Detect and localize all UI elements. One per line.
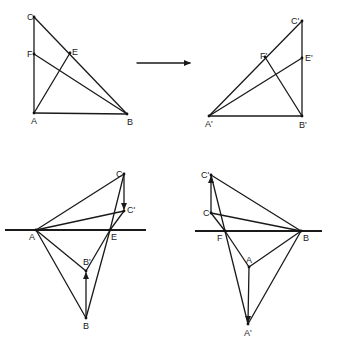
point-B [85, 317, 88, 320]
label-F: F [27, 49, 33, 59]
point-F [224, 230, 227, 233]
arrow-A-to-Ap-icon [248, 267, 249, 322]
label-E: E [72, 47, 78, 57]
label-Fp: F' [260, 51, 267, 61]
point-Ap [247, 323, 250, 326]
panel-top-right: C' F' E' A' B' [205, 16, 313, 130]
label-C: C [203, 208, 210, 218]
point-B [300, 230, 303, 233]
label-Cp: C' [291, 16, 299, 26]
label-B: B [303, 233, 309, 243]
label-Bp: B' [299, 120, 307, 130]
point-Bp [85, 270, 88, 273]
label-Cp: C' [201, 170, 209, 180]
label-Ap: A' [244, 328, 252, 338]
label-Ep: E' [305, 53, 313, 63]
segment-AE [34, 53, 70, 113]
segment-ApEp [209, 58, 302, 116]
segment-FB [34, 54, 127, 114]
figure-svg: C F E A B C' F' E' A' B' [0, 0, 340, 348]
label-C: C [27, 12, 34, 22]
segment-ApCp [209, 21, 302, 116]
point-Ap [208, 115, 211, 118]
point-E [69, 52, 72, 55]
point-Cp [123, 210, 126, 213]
point-A [35, 229, 38, 232]
point-Cp [301, 20, 304, 23]
geometry-figure: C F E A B C' F' E' A' B' [0, 0, 340, 348]
point-Cp [210, 174, 213, 177]
point-F [33, 53, 36, 56]
label-A: A [246, 255, 252, 265]
label-A: A [31, 116, 37, 126]
segment-AB [34, 113, 127, 114]
segment-AC [36, 174, 124, 230]
label-Ap: A' [205, 119, 213, 129]
label-Cp: C' [127, 205, 135, 215]
point-Ep [301, 57, 304, 60]
panel-bottom-left: C C' A E B' B [5, 169, 146, 331]
label-F: F [217, 233, 223, 243]
segment-ABp [36, 230, 86, 271]
segment-FAp [225, 231, 248, 324]
segment-CB [34, 17, 127, 114]
segment-BAp [248, 231, 301, 324]
label-C: C [116, 169, 123, 179]
label-A: A [29, 232, 35, 242]
panel-top-left: C F E A B [27, 12, 133, 127]
panel-bottom-right: C' C F B A A' [195, 170, 322, 338]
label-E: E [111, 232, 117, 242]
label-Bp: B' [83, 257, 91, 267]
segment-FpBp [265, 57, 302, 116]
point-A [33, 112, 36, 115]
point-B [126, 113, 129, 116]
point-C [210, 212, 213, 215]
segment-EB [86, 230, 110, 318]
segment-CE [110, 174, 124, 230]
point-Bp [301, 115, 304, 118]
segment-AB [36, 230, 86, 318]
point-E [109, 229, 112, 232]
point-C [123, 173, 126, 176]
label-B: B [83, 321, 89, 331]
point-A [248, 266, 251, 269]
segment-BA [249, 231, 301, 267]
label-B: B [127, 117, 133, 127]
